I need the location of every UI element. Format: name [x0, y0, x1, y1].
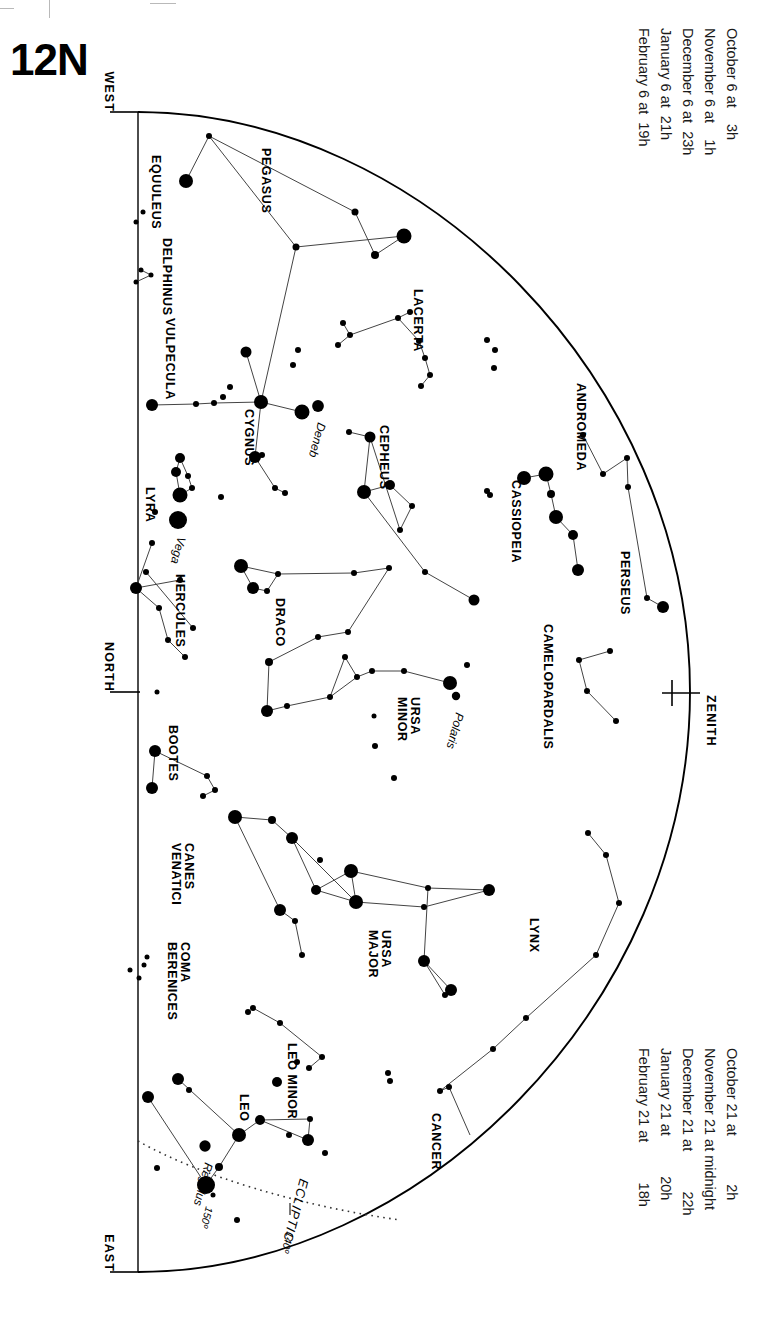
star-dot: [422, 355, 428, 361]
star-dot: [212, 787, 218, 793]
star-dot: [134, 220, 139, 225]
star-dot: [149, 540, 155, 546]
star-dot: [351, 570, 357, 576]
ecliptic-line: [138, 1141, 400, 1220]
star-dot: [523, 1015, 529, 1021]
star-dot: [607, 648, 613, 654]
star-dot: [154, 1165, 160, 1171]
star-dot: [142, 1091, 154, 1103]
star-dot: [484, 337, 490, 343]
star-dot: [584, 688, 590, 694]
star-dot: [282, 490, 288, 496]
constellation-label: CANCER: [429, 1113, 443, 1170]
star-dot: [603, 852, 609, 858]
star-dot: [286, 1132, 292, 1138]
compass-label-east: EAST: [102, 1234, 116, 1272]
star-dot: [265, 658, 273, 666]
star-dot: [425, 885, 431, 891]
constellation-label: DRACO: [273, 598, 287, 647]
star-dot: [277, 1020, 283, 1026]
star-dot: [593, 952, 599, 958]
constellation-label: LEO MINOR: [285, 1043, 299, 1119]
star-dot: [142, 963, 147, 968]
star-dot: [261, 705, 273, 717]
star-dot: [446, 1084, 452, 1090]
star-dot: [204, 773, 210, 779]
star-dot: [275, 571, 281, 577]
star-dot: [422, 569, 428, 575]
constellation-label: LYNX: [527, 918, 541, 953]
star-dot: [357, 485, 371, 499]
star-dot: [306, 1065, 312, 1071]
star-dot: [397, 229, 412, 244]
compass-label-north: NORTH: [102, 642, 116, 692]
star-dot: [206, 133, 212, 139]
star-dot: [165, 637, 171, 643]
star-dot: [134, 280, 139, 285]
constellation-label: VULPECULA: [163, 318, 177, 400]
star-dot: [345, 629, 351, 635]
star-dot: [319, 1054, 325, 1060]
star-dot: [492, 347, 498, 353]
star-dot: [369, 668, 375, 674]
constellation-label: CEPHEUS: [377, 425, 391, 490]
star-dot: [625, 484, 631, 490]
ecliptic-mark-150: 150º: [198, 1205, 215, 1230]
star-dot: [372, 714, 377, 719]
compass-label-west: WEST: [102, 71, 116, 112]
compass-label-zenith: ZENITH: [704, 695, 718, 747]
star-dot: [227, 384, 233, 390]
star-dot: [185, 473, 191, 479]
star-dot: [130, 582, 142, 594]
star-dot: [418, 383, 424, 389]
star-dot: [200, 793, 206, 799]
constellation-labels: EQUULEUSPEGASUSDELPHINUSVULPECULALACERTA…: [143, 148, 632, 1170]
star-dot: [340, 320, 346, 326]
star-dot: [572, 564, 584, 576]
star-dot: [211, 1193, 216, 1198]
star-dot: [409, 503, 415, 509]
star-dot: [155, 690, 160, 695]
star-dot: [469, 595, 480, 606]
star-dot: [254, 395, 268, 409]
star-dot: [182, 654, 188, 660]
constellation-label: CAMELOPARDALIS: [541, 624, 555, 750]
star-dot: [145, 955, 150, 960]
named-star-dot: [312, 400, 324, 412]
constellation-label: URSAMAJOR: [366, 930, 393, 978]
star-dot: [349, 895, 363, 909]
constellation-label: LEO: [237, 1094, 251, 1122]
constellation-label: CANESVENATICI: [169, 843, 196, 905]
star-dot: [624, 455, 630, 461]
star-dot: [234, 1217, 240, 1223]
star-dot: [193, 401, 199, 407]
star-dot: [317, 857, 323, 863]
star-dot: [264, 588, 270, 594]
star-dot: [139, 268, 144, 273]
constellation-label: ANDROMEDA: [574, 383, 588, 471]
star-dot: [387, 1078, 393, 1084]
star-dot: [483, 884, 495, 896]
star-dot: [172, 1073, 184, 1085]
constellation-label: DELPHINUS: [160, 238, 174, 316]
star-dot: [484, 488, 490, 494]
star-dot: [311, 885, 321, 895]
star-dot: [386, 565, 392, 571]
star-dot: [295, 405, 310, 420]
star-dot: [190, 625, 196, 631]
named-star-dot: [169, 511, 187, 529]
star-dot: [397, 527, 403, 533]
star-dot: [292, 918, 298, 924]
star-dot: [365, 432, 376, 443]
star-dot: [372, 743, 378, 749]
star-dot: [218, 494, 224, 500]
star-dot: [327, 694, 333, 700]
star-dot: [232, 1128, 246, 1142]
star-dot: [391, 775, 397, 781]
star-dot: [173, 488, 188, 503]
constellation-label: EQUULEUS: [149, 155, 163, 229]
star-dot: [295, 347, 301, 353]
star-dot: [568, 530, 578, 540]
constellation-label: LACERTA: [411, 289, 425, 352]
constellation-label: CYGNUS: [242, 409, 256, 466]
